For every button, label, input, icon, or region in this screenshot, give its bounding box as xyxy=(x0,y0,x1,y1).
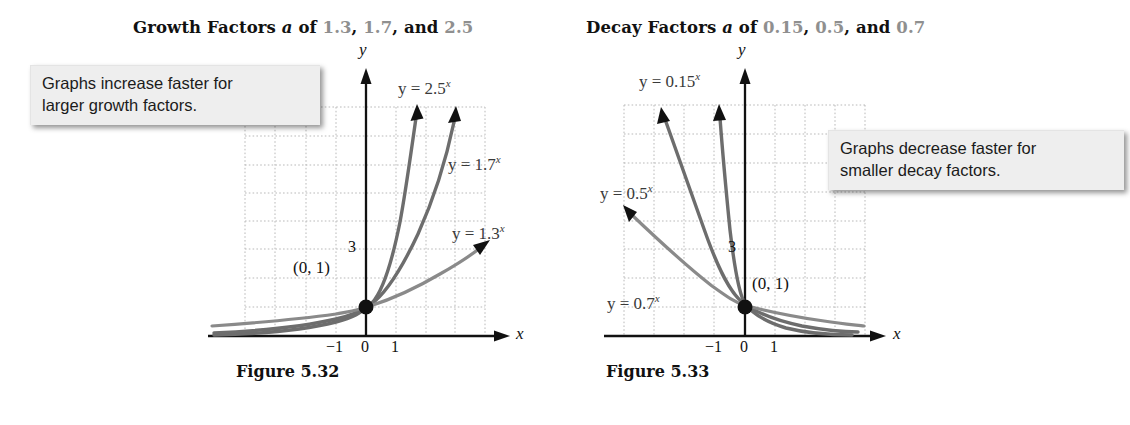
y-tick-3-right: 3 xyxy=(728,238,736,256)
curve-label-0-5: y = 0.5x xyxy=(600,182,653,204)
curve-label-0-7-text: y = 0.7 xyxy=(607,294,655,313)
callout-decay-line-2: smaller decay factors. xyxy=(840,160,1112,182)
curve-label-0-7: y = 0.7x xyxy=(607,292,660,314)
callout-decay-line-1: Graphs decrease faster for xyxy=(840,138,1112,160)
curve-label-0-5-text: y = 0.5 xyxy=(600,184,648,203)
x-tick-1-right: 1 xyxy=(770,338,778,356)
figure-5-33-plot xyxy=(0,0,1130,425)
origin-point-right xyxy=(738,300,753,315)
x-tick-0-right: 0 xyxy=(740,338,748,356)
x-axis-label-right: x xyxy=(893,324,901,344)
callout-decay: Graphs decrease faster for smaller decay… xyxy=(828,130,1124,190)
figure-5-33-caption: Figure 5.33 xyxy=(606,362,709,381)
point-label-right: (0, 1) xyxy=(752,274,789,294)
curve-label-0-15: y = 0.15x xyxy=(639,70,700,92)
textbook-figure-pair: Growth Factors a of 1.3, 1.7, and 2.5 xyxy=(0,0,1130,425)
x-tick-neg1-right: −1 xyxy=(705,338,722,356)
curve-label-0-15-exp: x xyxy=(695,70,700,82)
y-axis-label-right: y xyxy=(738,40,746,60)
curve-label-0-15-text: y = 0.15 xyxy=(639,72,695,91)
curve-label-0-5-exp: x xyxy=(648,182,653,194)
curve-label-0-7-exp: x xyxy=(655,292,660,304)
